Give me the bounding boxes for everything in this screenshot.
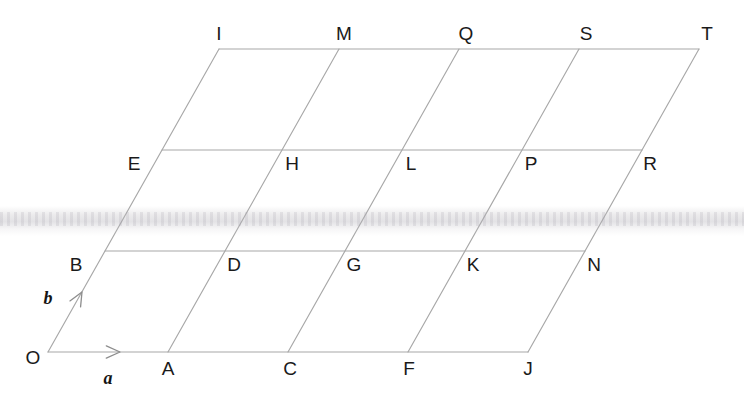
vertex-label-l: L (406, 154, 417, 173)
vertex-label-r: R (643, 154, 657, 173)
vertex-label-j: J (523, 359, 533, 378)
vertex-label-a: A (162, 359, 175, 378)
vertex-label-o: O (26, 348, 41, 367)
lattice-grid-svg (0, 0, 744, 409)
grid-lines-group (48, 49, 699, 352)
lattice-figure: OACFJBDGKNEHLPRIMQST ab (0, 0, 744, 409)
vertex-label-g: G (347, 255, 362, 274)
vector-arrows-group (48, 292, 120, 358)
vertex-label-h: H (285, 154, 299, 173)
vertex-label-b: B (70, 255, 83, 274)
vertex-label-q: Q (459, 24, 474, 43)
vertex-label-k: K (467, 255, 480, 274)
vertex-label-e: E (128, 154, 141, 173)
vertex-label-p: P (525, 154, 538, 173)
vertex-label-i: I (216, 24, 221, 43)
vector-label-a: a (104, 369, 113, 387)
vertex-label-d: D (227, 255, 241, 274)
vertex-label-n: N (587, 255, 601, 274)
vertex-label-m: M (336, 24, 352, 43)
vertex-label-t: T (701, 24, 713, 43)
vector-label-b: b (44, 289, 53, 307)
vector-b-shaft (48, 292, 82, 352)
vertex-label-s: S (580, 24, 593, 43)
vertex-label-c: C (283, 359, 297, 378)
vertex-label-f: F (403, 359, 415, 378)
